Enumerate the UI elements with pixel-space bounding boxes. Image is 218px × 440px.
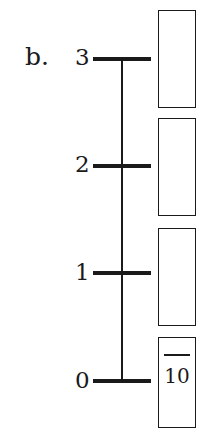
tick-mark-0: [93, 379, 151, 383]
tick-mark-2: [93, 164, 151, 168]
problem-label: b.: [25, 44, 49, 69]
answer-box-2[interactable]: [158, 118, 196, 216]
answer-box-3[interactable]: [158, 10, 196, 108]
answer-box-0[interactable]: 10: [158, 337, 196, 428]
tick-label-0: 0: [75, 369, 90, 392]
number-line-axis: [121, 58, 123, 382]
tick-mark-3: [93, 57, 151, 61]
tick-label-3: 3: [75, 46, 90, 69]
tick-label-2: 2: [75, 153, 90, 176]
answer-box-1[interactable]: [158, 228, 196, 326]
tick-label-1: 1: [75, 261, 90, 284]
fraction-denominator: 10: [159, 364, 195, 388]
fraction-bar: [164, 354, 190, 356]
tick-mark-1: [93, 271, 151, 275]
